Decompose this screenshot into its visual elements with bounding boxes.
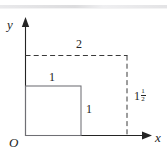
dashed-right-height-label: 1 1 2	[134, 88, 146, 103]
mixed-number-fraction: 1 2	[141, 88, 146, 103]
y-axis-label: y	[7, 18, 13, 31]
x-axis-arrowhead	[142, 132, 152, 140]
geometry-figure: y x O 2 1 1 1 1 2	[0, 0, 167, 165]
origin-label: O	[9, 136, 18, 149]
y-axis-arrowhead	[22, 17, 29, 27]
x-axis-label: x	[155, 131, 161, 144]
dashed-top-length-label: 2	[76, 38, 82, 50]
diagram-canvas	[0, 0, 167, 165]
unit-square	[26, 86, 82, 136]
mixed-number-whole-part: 1	[134, 90, 140, 102]
fraction-denominator: 2	[141, 96, 146, 103]
fraction-numerator: 1	[141, 88, 146, 95]
square-top-length-label: 1	[49, 71, 55, 83]
square-right-length-label: 1	[86, 103, 92, 115]
